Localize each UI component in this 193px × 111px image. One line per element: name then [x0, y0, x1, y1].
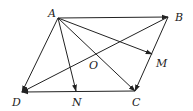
point-label-a: A	[47, 7, 56, 20]
vector-cd	[22, 91, 135, 92]
point-label-o: O	[89, 59, 98, 72]
vector-ad	[22, 18, 58, 92]
vector-bc	[135, 17, 168, 91]
point-label-c: C	[132, 96, 141, 109]
point-label-d: D	[11, 96, 21, 109]
parallelogram-diagram: A B C D N M O	[0, 0, 193, 111]
point-label-m: M	[155, 57, 168, 70]
vector-bd	[22, 17, 168, 92]
vector-ac	[58, 18, 135, 91]
vector-ab	[58, 17, 168, 18]
vector-group	[22, 17, 168, 92]
vector-am	[58, 18, 152, 54]
point-label-b: B	[174, 11, 183, 24]
point-label-n: N	[71, 96, 82, 109]
vector-an	[58, 18, 76, 91]
